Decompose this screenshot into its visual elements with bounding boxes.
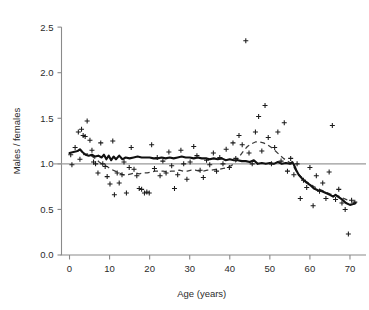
scatter-point-marker — [172, 186, 177, 191]
scatter-point-marker — [142, 191, 147, 196]
scatter-point-marker — [110, 139, 115, 144]
x-tick-label: 50 — [265, 263, 276, 274]
scatter-point-marker — [98, 140, 103, 145]
x-tick-label: 20 — [144, 263, 155, 274]
scatter-point-marker — [211, 150, 216, 155]
scatter-point-marker — [311, 203, 316, 208]
scatter-point-marker — [124, 191, 129, 196]
scatter-point-marker — [73, 145, 78, 150]
x-tick-label: 0 — [67, 263, 72, 274]
scatter-point-marker — [95, 170, 100, 175]
scatter-point-marker — [272, 145, 277, 150]
scatter-point-marker — [314, 173, 319, 178]
scatter-point-marker — [285, 169, 290, 174]
scatter-plot-canvas: 0.00.51.01.52.02.5010203040506070Age (ye… — [0, 0, 369, 310]
scatter-point-marker — [129, 145, 134, 150]
scatter-point-marker — [282, 120, 287, 125]
scatter-point-marker — [147, 191, 152, 196]
scatter-point-marker — [343, 207, 348, 212]
scatter-point-marker — [139, 187, 144, 192]
y-tick-label: 1.5 — [40, 113, 53, 124]
scatter-point-marker — [175, 172, 180, 177]
scatter-point-marker — [240, 142, 245, 147]
scatter-point-marker — [256, 114, 261, 119]
scatter-point-marker — [224, 147, 229, 152]
y-tick-label: 0.5 — [40, 204, 53, 215]
scatter-point-marker — [230, 140, 235, 145]
scatter-point-marker — [191, 144, 196, 149]
scatter-point-marker — [158, 173, 163, 178]
scatter-point-marker — [259, 149, 264, 154]
scatter-point-marker — [89, 148, 94, 153]
scatter-point-marker — [132, 167, 137, 172]
scatter-points-group — [68, 38, 357, 236]
y-tick-label: 2.5 — [40, 22, 53, 33]
scatter-point-marker — [144, 190, 149, 195]
scatter-point-marker — [160, 159, 165, 164]
scatter-point-marker — [336, 187, 341, 192]
x-tick-label: 60 — [305, 263, 316, 274]
scatter-point-marker — [201, 175, 206, 180]
x-tick-label: 40 — [224, 263, 235, 274]
scatter-point-marker — [149, 142, 154, 147]
scatter-point-marker — [152, 166, 157, 171]
scatter-point-marker — [178, 148, 183, 153]
scatter-point-marker — [105, 174, 110, 179]
scatter-point-marker — [117, 180, 122, 185]
scatter-point-marker — [137, 186, 142, 191]
scatter-point-marker — [333, 197, 338, 202]
scatter-point-marker — [79, 127, 84, 132]
scatter-point-marker — [87, 138, 92, 143]
scatter-point-marker — [103, 164, 108, 169]
scatter-point-marker — [323, 196, 328, 201]
x-tick-label: 70 — [345, 263, 356, 274]
scatter-point-marker — [247, 150, 252, 155]
y-tick-label: 1.0 — [40, 158, 53, 169]
scatter-point-marker — [181, 161, 186, 166]
scatter-point-marker — [304, 185, 309, 190]
scatter-point-marker — [198, 168, 203, 173]
y-tick-label: 2.0 — [40, 67, 53, 78]
scatter-point-marker — [77, 157, 82, 162]
scatter-point-marker — [112, 192, 117, 197]
scatter-point-marker — [243, 38, 248, 43]
x-tick-label: 30 — [184, 263, 195, 274]
scatter-point-marker — [320, 180, 325, 185]
x-axis-title: Age (years) — [177, 288, 226, 299]
scatter-point-marker — [288, 156, 293, 161]
scatter-point-marker — [100, 161, 105, 166]
scatter-point-marker — [85, 119, 90, 124]
y-tick-label: 0.0 — [40, 249, 53, 260]
running-mean-solid-line — [70, 149, 356, 205]
chart-figure: 0.00.51.01.52.02.5010203040506070Age (ye… — [0, 0, 369, 310]
scatter-point-marker — [263, 103, 268, 108]
scatter-point-marker — [253, 129, 258, 134]
scatter-point-marker — [107, 181, 112, 186]
scatter-point-marker — [236, 133, 241, 138]
scatter-point-marker — [207, 162, 212, 167]
scatter-point-marker — [275, 129, 280, 134]
scatter-point-marker — [346, 232, 351, 237]
scatter-point-marker — [330, 123, 335, 128]
scatter-point-marker — [298, 196, 303, 201]
scatter-point-marker — [127, 165, 132, 170]
scatter-point-marker — [291, 172, 296, 177]
scatter-point-marker — [327, 170, 332, 175]
scatter-point-marker — [166, 150, 171, 155]
scatter-point-marker — [184, 177, 189, 182]
scatter-point-marker — [220, 161, 225, 166]
scatter-point-marker — [69, 162, 74, 167]
scatter-point-marker — [266, 135, 271, 140]
y-axis-title: Males / females — [11, 108, 22, 175]
x-tick-label: 10 — [104, 263, 115, 274]
scatter-point-marker — [76, 129, 81, 134]
scatter-point-marker — [307, 165, 312, 170]
